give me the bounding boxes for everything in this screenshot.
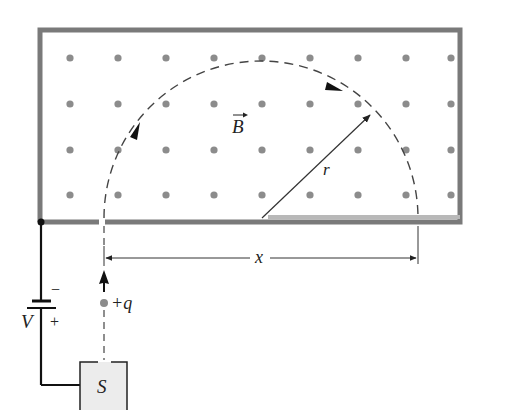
- voltage-label: V: [21, 311, 35, 332]
- field-dot: [306, 100, 313, 107]
- vector-arrow-icon: [243, 113, 248, 118]
- field-dot: [258, 146, 265, 153]
- field-dot: [66, 191, 73, 198]
- field-dot: [162, 146, 169, 153]
- field-dot: [354, 54, 361, 61]
- distance-label: x: [254, 247, 263, 267]
- field-dot: [258, 191, 265, 198]
- field-dot: [354, 146, 361, 153]
- field-dot: [402, 100, 409, 107]
- field-dot: [447, 146, 454, 153]
- field-dot: [210, 100, 217, 107]
- battery-icon: [27, 301, 56, 308]
- source-label: S: [97, 376, 107, 397]
- field-dot: [306, 54, 313, 61]
- field-chamber: [40, 30, 460, 222]
- field-dot: [447, 191, 454, 198]
- field-dot: [354, 100, 361, 107]
- field-dot: [447, 100, 454, 107]
- field-dot: [402, 54, 409, 61]
- field-dot: [354, 191, 361, 198]
- field-dot: [162, 100, 169, 107]
- field-dot: [258, 100, 265, 107]
- field-dot: [66, 100, 73, 107]
- field-dot: [114, 191, 121, 198]
- field-dot: [66, 146, 73, 153]
- field-dot: [447, 54, 454, 61]
- field-dot: [306, 191, 313, 198]
- field-dot: [210, 191, 217, 198]
- field-dot: [402, 191, 409, 198]
- battery-minus-label: −: [51, 281, 60, 298]
- detector-plate: [268, 215, 460, 219]
- charged-particle: [100, 299, 108, 307]
- radius-label: r: [323, 160, 330, 179]
- mass-spectrometer-diagram: r B x +q − + V S: [0, 0, 506, 410]
- field-dot: [210, 54, 217, 61]
- battery-plus-label: +: [50, 313, 59, 330]
- radius-line: [262, 115, 370, 218]
- charge-label: +q: [111, 293, 132, 313]
- trajectory-arrow-left-icon: [130, 122, 140, 140]
- field-dot: [66, 54, 73, 61]
- field-dot: [306, 146, 313, 153]
- field-dot: [114, 100, 121, 107]
- magnetic-field-dots: [66, 54, 454, 198]
- field-dot: [210, 146, 217, 153]
- velocity-arrow-icon: [99, 270, 109, 292]
- circuit: [41, 222, 80, 385]
- field-dot: [114, 54, 121, 61]
- field-label: B: [232, 116, 244, 137]
- field-dot: [162, 54, 169, 61]
- trajectory-arrow-right-icon: [325, 82, 343, 91]
- field-dot: [162, 191, 169, 198]
